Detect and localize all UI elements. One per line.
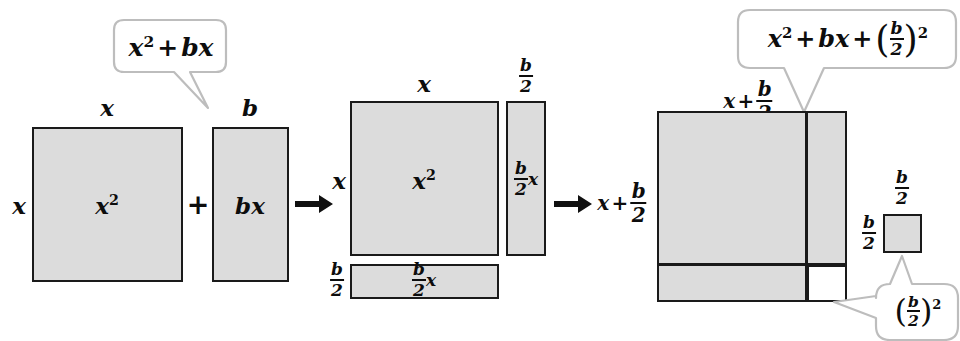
stage2-square-top-label-x: x: [417, 72, 431, 95]
stage2-vertical-strip-area-label: b2x: [514, 161, 538, 199]
stage1-bx-area-label: bx: [235, 194, 265, 217]
callout-x2-plus-bx: x2+bx: [112, 18, 238, 110]
stage3-small-square-top-label: b2: [895, 170, 909, 208]
stage3-b-over-2-square: [883, 214, 922, 253]
stage2-square-left-label-x: x: [332, 169, 346, 192]
expression-completed-square: x2+bx+(b2)2: [768, 21, 928, 60]
stage1-x-squared-area-label: x2: [95, 193, 119, 217]
callout-b-over-2-squared-text: (b2)2: [880, 286, 956, 338]
stage1-square-left-label-x: x: [12, 194, 26, 217]
arrow-right-icon: [554, 193, 594, 215]
expression-b-over-2-squared: (b2)2: [895, 294, 942, 329]
arrow-right-icon: [295, 193, 335, 215]
stage3-vertical-divider: [805, 111, 808, 302]
diagram-canvas: x2+bx x2 x x + bx b x2 x x b2x b2 b2x b2: [0, 0, 960, 341]
stage3-horizontal-divider: [657, 263, 847, 266]
callout-b-over-2-squared: (b2)2: [832, 256, 960, 341]
arrow-stage1-to-stage2: [295, 193, 335, 219]
callout-completed-square-text: x2+bx+(b2)2: [740, 12, 956, 68]
callout-x2-plus-bx-text: x2+bx: [116, 22, 226, 72]
stage1-plus-sign: +: [187, 191, 210, 218]
stage2-horizontal-strip-area-label: b2x: [412, 262, 436, 300]
stage1-rect-top-label-b: b: [242, 96, 258, 119]
stage2-vertical-strip-top-label: b2: [519, 58, 533, 96]
stage2-horizontal-strip-left-label: b2: [330, 262, 344, 300]
stage3-small-square-left-label: b2: [862, 215, 876, 253]
arrow-stage2-to-stage3: [554, 193, 594, 219]
stage2-x-squared-area-label: x2: [412, 168, 436, 192]
stage1-square-top-label-x: x: [100, 96, 114, 119]
stage3-left-label-x-plus-b-over-2: x+b2: [597, 182, 646, 226]
expression-x2-plus-bx: x2+bx: [128, 34, 213, 60]
